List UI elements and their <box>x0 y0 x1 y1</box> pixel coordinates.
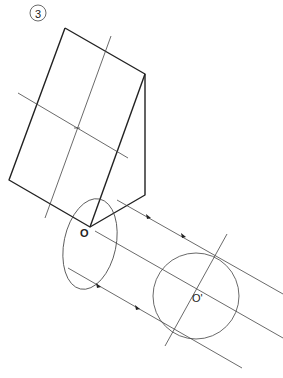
technical-drawing: 3 O O' <box>0 0 283 378</box>
projection-lines <box>68 200 283 368</box>
origin-label: O <box>80 227 89 239</box>
step-number-badge: 3 <box>30 5 46 21</box>
ellipse-section <box>55 194 125 295</box>
true-shape-circle <box>153 234 239 346</box>
step-number: 3 <box>35 8 41 20</box>
prism-centerlines <box>18 36 128 218</box>
projected-origin-label: O' <box>192 292 203 304</box>
prism-diagonal-edge <box>90 74 145 227</box>
